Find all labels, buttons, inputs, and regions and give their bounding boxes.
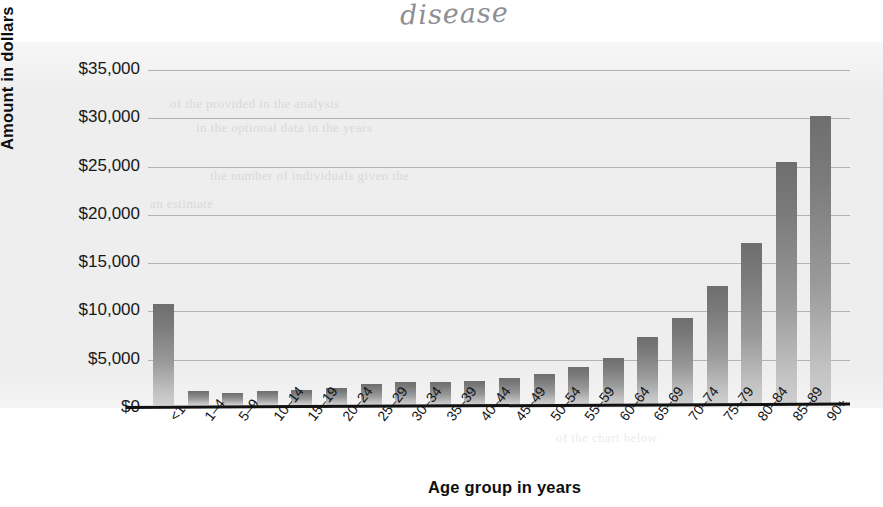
y-axis-tick-label: $25,000 (79, 156, 140, 176)
y-axis-tick-label: $20,000 (79, 204, 140, 224)
y-axis-title: Amount in dollars (0, 6, 17, 150)
bar (810, 116, 831, 405)
y-axis-tick-label: $5,000 (88, 349, 140, 369)
y-axis-tick-label: $30,000 (79, 107, 140, 127)
bar (188, 391, 209, 405)
x-axis-title: Age group in years (0, 478, 883, 497)
bar (776, 162, 797, 405)
bar (153, 304, 174, 405)
plot-area: <11–45–910–1415–1920–2425–2930–3435–3940… (148, 62, 850, 408)
y-axis-tick-label: $35,000 (79, 59, 140, 79)
bar (257, 391, 278, 405)
handwritten-annotation: disease (400, 0, 509, 30)
y-axis-tick-label: $15,000 (79, 252, 140, 272)
x-axis-title-text: Age group in years (428, 478, 581, 496)
chart-screenshot: of the provided in the analysis in the o… (0, 0, 883, 507)
bar (741, 243, 762, 405)
y-axis-tick-label: $10,000 (79, 300, 140, 320)
background-bleed-text: of the chart below (556, 430, 657, 446)
bar-series (148, 62, 850, 405)
